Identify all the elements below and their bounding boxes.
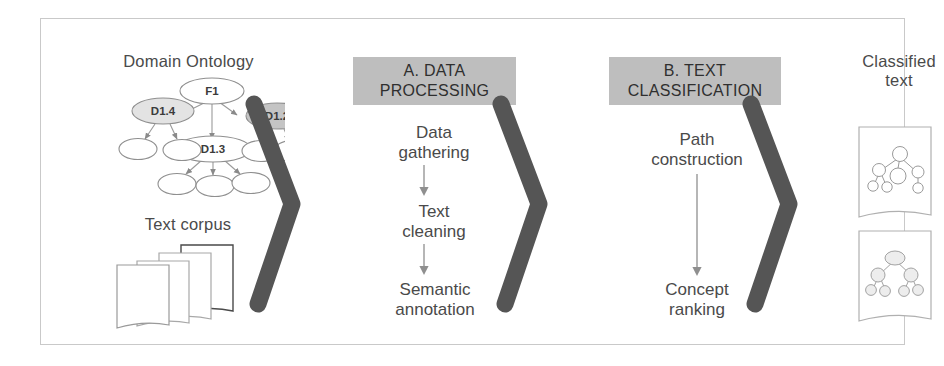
domain-ontology-label: Domain Ontology [101, 52, 276, 71]
ontology-leaf [196, 176, 234, 197]
stage-b-header-line1: B. TEXT [664, 62, 726, 79]
ontology-leaf [158, 174, 196, 195]
classified-text-label: Classified text [849, 52, 944, 90]
classified-document-2 [859, 231, 931, 321]
classified-text-graphic [853, 123, 939, 328]
corpus-document [117, 265, 169, 328]
stage-a-step-data-gathering: Data gathering [359, 123, 509, 163]
chevron-separator-1 [244, 92, 304, 317]
text-corpus-label: Text corpus [113, 215, 263, 234]
stage-b-arrow-1 [690, 174, 704, 277]
stage-a-step-text-cleaning: Text cleaning [359, 202, 509, 242]
ontology-node-d13-text: D1.3 [201, 143, 225, 155]
stage-a-arrow-1 [417, 165, 431, 197]
stage-a-header-line1: A. DATA [404, 62, 466, 79]
ontology-node-f1-text: F1 [205, 85, 219, 97]
diagram-frame: Domain Ontology [40, 18, 905, 345]
text-corpus-graphic [113, 239, 243, 329]
chevron-separator-3 [741, 92, 801, 317]
ontology-leaf [119, 139, 157, 160]
stage-a-arrow-2 [417, 244, 431, 276]
chevron-separator-2 [491, 92, 551, 317]
ontology-node-d14-text: D1.4 [151, 105, 176, 117]
stage-a-header-line2: PROCESSING [380, 82, 490, 99]
ontology-leaf [163, 140, 201, 161]
